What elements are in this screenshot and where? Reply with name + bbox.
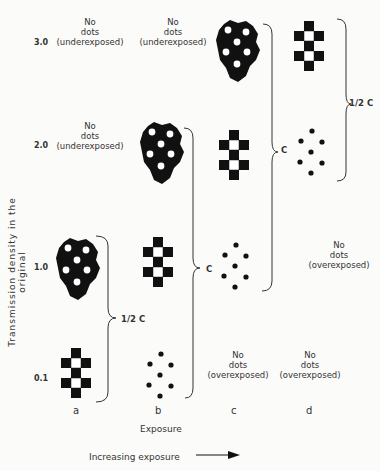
cell-a-1-0-blob bbox=[56, 238, 100, 300]
brace-a bbox=[96, 236, 116, 402]
cell-c-1-0-dots bbox=[221, 242, 248, 289]
brace-b bbox=[184, 128, 200, 398]
diagram-graphics bbox=[0, 0, 380, 471]
cell-c-3-0-blob bbox=[216, 20, 260, 82]
brace-d bbox=[337, 19, 351, 181]
brace-c bbox=[262, 24, 278, 291]
cell-d-2-0-dots bbox=[297, 128, 324, 175]
cell-b-0-1-dots bbox=[146, 351, 173, 398]
arrow-right-icon bbox=[196, 451, 240, 459]
cell-d-3-0-checker bbox=[294, 21, 324, 71]
cell-a-0-1-checker bbox=[61, 348, 91, 398]
cell-b-2-0-blob bbox=[140, 122, 184, 184]
cell-b-1-0-checker bbox=[143, 237, 173, 287]
cell-c-2-0-checker bbox=[219, 130, 249, 180]
